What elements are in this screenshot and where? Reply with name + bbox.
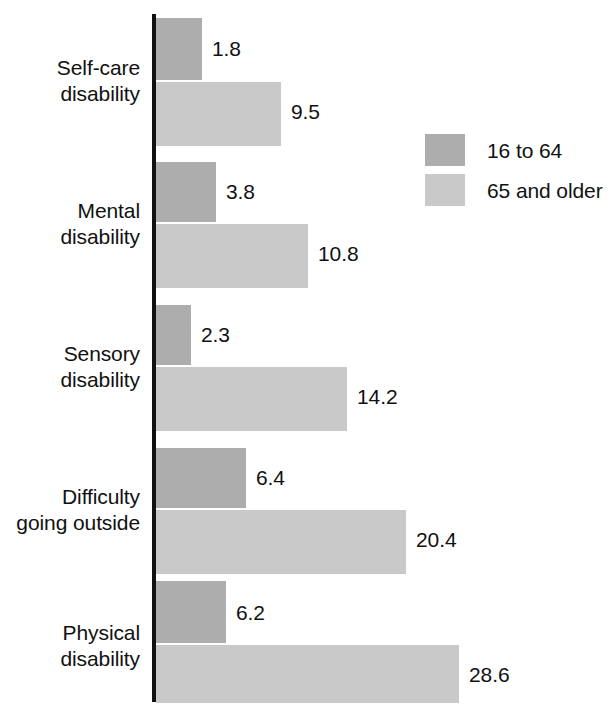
category-label-line-2: disability: [0, 224, 140, 250]
legend-item-16-to-64[interactable]: 16 to 64: [425, 133, 603, 167]
bar-value-physical-disability-16-to-64: 6.2: [236, 602, 265, 623]
legend-item-65-and-older[interactable]: 65 and older: [425, 173, 603, 207]
category-label-line-2: disability: [0, 81, 140, 107]
bar-sensory-disability-16-to-64[interactable]: [156, 305, 191, 365]
bar-physical-disability-16-to-64[interactable]: [156, 581, 226, 643]
bar-chart: Self-care disability 1.8 9.5 Mental disa…: [0, 0, 616, 714]
legend-swatch-icon-16-to-64: [425, 134, 465, 166]
bar-value-sensory-disability-16-to-64: 2.3: [201, 324, 230, 345]
bar-value-sensory-disability-65-and-older: 14.2: [357, 386, 397, 407]
bar-self-care-disability-65-and-older[interactable]: [156, 82, 281, 146]
legend-label-16-to-64: 16 to 64: [487, 140, 562, 161]
category-label-sensory-disability: Sensory disability: [0, 341, 140, 393]
category-label-self-care-disability: Self-care disability: [0, 55, 140, 107]
bar-value-mental-disability-65-and-older: 10.8: [318, 243, 358, 264]
category-label-line-1: Difficulty: [0, 484, 140, 510]
bar-sensory-disability-65-and-older[interactable]: [156, 367, 347, 431]
category-label-line-1: Physical: [0, 620, 140, 646]
category-label-line-1: Self-care: [0, 55, 140, 81]
bar-difficulty-going-outside-65-and-older[interactable]: [156, 510, 406, 574]
bar-value-self-care-disability-16-to-64: 1.8: [212, 38, 241, 59]
category-label-line-2: disability: [0, 646, 140, 672]
bar-self-care-disability-16-to-64[interactable]: [156, 18, 202, 80]
category-label-line-1: Sensory: [0, 341, 140, 367]
legend-label-65-and-older: 65 and older: [487, 180, 603, 201]
bar-value-difficulty-going-outside-16-to-64: 6.4: [256, 467, 285, 488]
bar-physical-disability-65-and-older[interactable]: [156, 645, 459, 703]
bar-mental-disability-65-and-older[interactable]: [156, 224, 308, 288]
category-label-line-2: disability: [0, 367, 140, 393]
legend: 16 to 64 65 and older: [425, 133, 603, 213]
bar-value-mental-disability-16-to-64: 3.8: [226, 181, 255, 202]
category-label-difficulty-going-outside: Difficulty going outside: [0, 484, 140, 536]
bar-value-difficulty-going-outside-65-and-older: 20.4: [416, 529, 456, 550]
category-label-line-2: going outside: [0, 510, 140, 536]
bar-difficulty-going-outside-16-to-64[interactable]: [156, 448, 246, 508]
category-label-mental-disability: Mental disability: [0, 198, 140, 250]
legend-swatch-icon-65-and-older: [425, 174, 465, 206]
plot-area: Self-care disability 1.8 9.5 Mental disa…: [0, 0, 616, 714]
category-label-physical-disability: Physical disability: [0, 620, 140, 672]
bar-mental-disability-16-to-64[interactable]: [156, 162, 216, 222]
category-label-line-1: Mental: [0, 198, 140, 224]
bar-value-physical-disability-65-and-older: 28.6: [469, 664, 509, 685]
bar-value-self-care-disability-65-and-older: 9.5: [291, 101, 320, 122]
